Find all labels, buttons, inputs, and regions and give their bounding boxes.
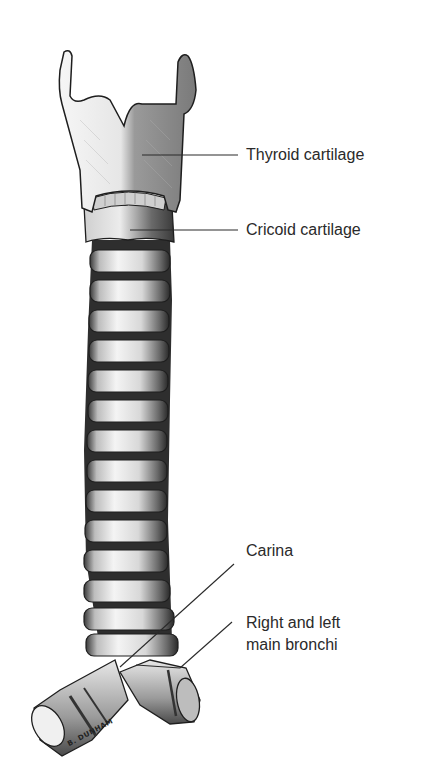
- bronchi: [25, 660, 203, 756]
- trachea-illustration: Thyroid cartilage Cricoid cartilage Cari…: [0, 0, 423, 774]
- bronchi-leader: [180, 622, 232, 668]
- anatomy-drawing: [0, 0, 423, 774]
- label-thyroid-cartilage: Thyroid cartilage: [246, 145, 364, 165]
- label-bronchi-line2: main bronchi: [246, 635, 338, 655]
- thyroid-cartilage-shape: [59, 51, 196, 212]
- label-cricoid-cartilage: Cricoid cartilage: [246, 220, 361, 240]
- label-bronchi-line1: Right and left: [246, 613, 340, 633]
- label-carina: Carina: [246, 541, 293, 561]
- trachea: [84, 240, 178, 656]
- cricoid-cartilage-shape: [84, 192, 174, 242]
